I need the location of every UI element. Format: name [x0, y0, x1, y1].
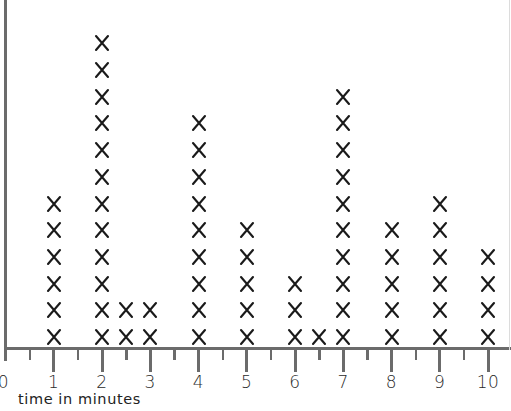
x-marker [333, 327, 353, 347]
x-marker [237, 247, 257, 267]
x-marker [285, 327, 305, 347]
major-tick [487, 348, 490, 372]
x-marker [44, 220, 64, 240]
x-tick-label: 10 [477, 372, 500, 392]
x-marker [189, 247, 209, 267]
x-marker [237, 300, 257, 320]
minor-tick [270, 348, 273, 360]
x-marker [478, 274, 498, 294]
minor-tick [173, 348, 176, 360]
x-marker [140, 300, 160, 320]
x-marker [333, 194, 353, 214]
major-tick [4, 348, 7, 361]
x-tick-label: 3 [145, 372, 156, 392]
x-marker [92, 247, 112, 267]
x-marker [44, 247, 64, 267]
x-marker [92, 327, 112, 347]
x-marker [333, 247, 353, 267]
x-marker [44, 327, 64, 347]
x-marker [116, 327, 136, 347]
x-marker [189, 274, 209, 294]
x-marker [333, 274, 353, 294]
x-axis-line [4, 347, 511, 350]
x-marker [189, 194, 209, 214]
minor-tick [222, 348, 225, 360]
x-tick-label: 2 [96, 372, 107, 392]
x-marker [382, 247, 402, 267]
x-tick-label: 1 [48, 372, 59, 392]
x-marker [92, 194, 112, 214]
x-marker [478, 247, 498, 267]
x-marker [478, 300, 498, 320]
minor-tick [415, 348, 418, 360]
x-marker [430, 327, 450, 347]
x-marker [382, 274, 402, 294]
x-tick-label: 8 [386, 372, 397, 392]
x-marker [333, 300, 353, 320]
major-tick [245, 348, 248, 372]
y-axis-line [4, 0, 7, 361]
x-marker [430, 247, 450, 267]
major-tick [197, 348, 200, 372]
minor-tick [463, 348, 466, 360]
x-axis-title: time in minutes [18, 391, 141, 407]
x-marker [92, 60, 112, 80]
x-marker [140, 327, 160, 347]
major-tick [438, 348, 441, 372]
x-marker [285, 300, 305, 320]
x-tick-label: 6 [289, 372, 300, 392]
major-tick [342, 348, 345, 372]
x-marker [92, 167, 112, 187]
x-marker [44, 194, 64, 214]
minor-tick [125, 348, 128, 360]
minor-tick [366, 348, 369, 360]
x-marker [430, 300, 450, 320]
minor-tick [77, 348, 80, 360]
x-tick-label: 0 [0, 372, 9, 392]
x-marker [116, 300, 136, 320]
x-marker [333, 140, 353, 160]
x-marker [44, 274, 64, 294]
minor-tick [318, 348, 321, 360]
x-marker [92, 300, 112, 320]
x-marker [478, 327, 498, 347]
x-marker [285, 274, 305, 294]
x-marker [189, 167, 209, 187]
dot-plot: 012345678910 time in minutes [0, 0, 511, 411]
major-tick [294, 348, 297, 372]
x-tick-label: 5 [241, 372, 252, 392]
x-tick-label: 7 [338, 372, 349, 392]
x-marker [382, 327, 402, 347]
x-marker [189, 113, 209, 133]
x-marker [430, 220, 450, 240]
x-marker [309, 327, 329, 347]
x-marker [92, 33, 112, 53]
minor-tick [29, 348, 32, 360]
x-marker [333, 220, 353, 240]
x-marker [92, 140, 112, 160]
x-marker [189, 300, 209, 320]
x-tick-label: 4 [193, 372, 204, 392]
x-marker [44, 300, 64, 320]
x-marker [92, 113, 112, 133]
right-edge-line [509, 0, 510, 350]
x-marker [333, 87, 353, 107]
x-tick-label: 9 [434, 372, 445, 392]
x-marker [333, 167, 353, 187]
x-marker [92, 220, 112, 240]
x-marker [237, 327, 257, 347]
x-marker [189, 327, 209, 347]
major-tick [149, 348, 152, 372]
x-marker [382, 300, 402, 320]
x-marker [189, 140, 209, 160]
major-tick [390, 348, 393, 372]
x-marker [430, 274, 450, 294]
x-marker [92, 87, 112, 107]
major-tick [101, 348, 104, 372]
x-marker [430, 194, 450, 214]
x-marker [237, 220, 257, 240]
x-marker [237, 274, 257, 294]
major-tick [52, 348, 55, 372]
x-marker [92, 274, 112, 294]
x-marker [189, 220, 209, 240]
